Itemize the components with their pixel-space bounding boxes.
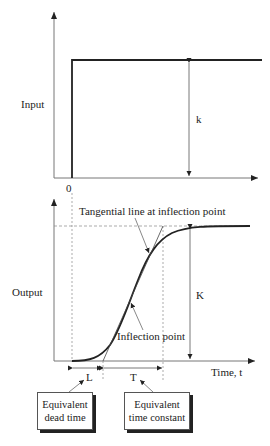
dead-time-callout-pointer <box>69 380 84 392</box>
tangent-annotation-label: Tangential line at inflection point <box>79 205 225 217</box>
output-axis-label: Output <box>12 286 43 298</box>
time-constant-callout-line1: Equivalent <box>125 398 189 411</box>
input-plot <box>54 12 262 362</box>
dead-time-callout-line1: Equivalent <box>38 398 92 411</box>
l-label: L <box>86 371 93 383</box>
origin-label: 0 <box>66 182 72 194</box>
dead-time-callout-line2: dead time <box>38 411 92 424</box>
tangent-annotation-arrow <box>135 218 149 253</box>
t-label: T <box>130 371 137 383</box>
time-constant-callout-pointer <box>140 380 153 392</box>
time-axis-label: Time, t <box>211 366 242 378</box>
inflection-annotation-arrow <box>131 303 143 330</box>
k-label: k <box>196 113 202 125</box>
step-input-line <box>72 60 262 178</box>
input-axis-label: Input <box>21 98 44 110</box>
output-plot <box>54 199 255 392</box>
big-k-label: K <box>196 289 204 301</box>
dead-time-callout-box: Equivalent dead time <box>37 392 93 430</box>
time-constant-callout-line2: time constant <box>125 411 189 424</box>
inflection-annotation-label: Inflection point <box>117 330 185 342</box>
time-constant-callout-box: Equivalent time constant <box>124 392 190 430</box>
